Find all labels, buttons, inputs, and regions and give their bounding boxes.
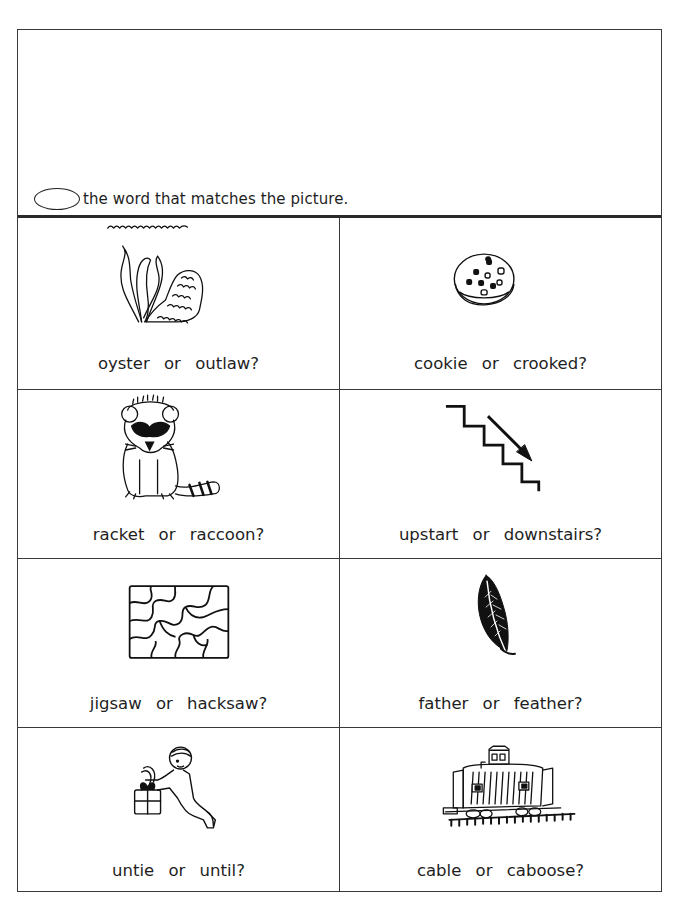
question-cell-caboose: cable or caboose? — [340, 728, 661, 891]
raccoon-icon — [18, 390, 339, 510]
question-text: jigsaw or hacksaw? — [18, 694, 339, 713]
question-text: cookie or crooked? — [340, 354, 661, 373]
cookie-icon — [340, 218, 661, 338]
connector: or — [482, 354, 499, 373]
question-cell-feather: father or feather? — [340, 559, 661, 728]
option-a[interactable]: racket — [93, 525, 145, 544]
option-a[interactable]: oyster — [98, 354, 150, 373]
question-text: father or feather? — [340, 694, 661, 713]
instruction: the word that matches the picture. — [34, 188, 348, 210]
circle-answer-oval-icon — [34, 188, 80, 210]
option-a[interactable]: cookie — [414, 354, 468, 373]
option-a[interactable]: father — [419, 694, 469, 713]
question-grid: oyster or outlaw? — [18, 218, 661, 891]
worksheet-header: the word that matches the picture. — [18, 30, 661, 218]
connector: or — [156, 694, 173, 713]
option-b[interactable]: raccoon? — [190, 525, 264, 544]
downstairs-icon — [340, 390, 661, 510]
option-a[interactable]: cable — [417, 861, 461, 880]
connector: or — [473, 525, 490, 544]
question-cell-raccoon: racket or raccoon? — [18, 390, 340, 559]
option-a[interactable]: untie — [112, 861, 154, 880]
option-b[interactable]: crooked? — [513, 354, 587, 373]
question-text: cable or caboose? — [340, 861, 661, 880]
worksheet: the word that matches the picture. — [17, 29, 662, 892]
caboose-icon — [340, 728, 661, 848]
connector: or — [168, 861, 185, 880]
option-b[interactable]: hacksaw? — [187, 694, 267, 713]
option-a[interactable]: jigsaw — [90, 694, 142, 713]
question-cell-jigsaw: jigsaw or hacksaw? — [18, 559, 340, 728]
connector: or — [476, 861, 493, 880]
question-text: racket or raccoon? — [18, 525, 339, 544]
untie-gift-icon — [18, 728, 339, 848]
option-b[interactable]: downstairs? — [504, 525, 602, 544]
option-b[interactable]: outlaw? — [195, 354, 259, 373]
connector: or — [164, 354, 181, 373]
question-cell-downstairs: upstart or downstairs? — [340, 390, 661, 559]
option-b[interactable]: feather? — [514, 694, 583, 713]
question-cell-oyster: oyster or outlaw? — [18, 218, 340, 390]
oyster-icon — [18, 218, 339, 338]
instruction-text: the word that matches the picture. — [83, 190, 348, 208]
connector: or — [159, 525, 176, 544]
question-text: upstart or downstairs? — [340, 525, 661, 544]
feather-icon — [340, 559, 661, 679]
option-a[interactable]: upstart — [399, 525, 458, 544]
question-cell-untie: untie or until? — [18, 728, 340, 891]
question-text: untie or until? — [18, 861, 339, 880]
option-b[interactable]: until? — [200, 861, 245, 880]
question-cell-cookie: cookie or crooked? — [340, 218, 661, 390]
connector: or — [483, 694, 500, 713]
question-text: oyster or outlaw? — [18, 354, 339, 373]
jigsaw-puzzle-icon — [18, 559, 339, 679]
option-b[interactable]: caboose? — [507, 861, 584, 880]
